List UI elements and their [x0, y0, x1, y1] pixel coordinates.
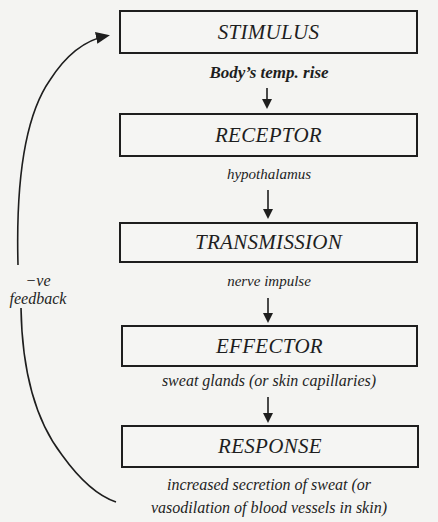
feedback-diagram: STIMULUS RECEPTOR TRANSMISSION EFFECTOR …: [0, 0, 438, 522]
response-label: RESPONSE: [218, 434, 322, 459]
receptor-label: RECEPTOR: [215, 123, 322, 148]
response-caption-line2: vasodilation of blood vessels in skin): [110, 496, 428, 519]
stimulus-caption: Body’s temp. rise: [110, 63, 428, 83]
transmission-box: TRANSMISSION: [119, 222, 418, 263]
transmission-label: TRANSMISSION: [195, 230, 342, 255]
feedback-label: −ve feedback: [0, 272, 76, 308]
response-caption: increased secretion of sweat (or vasodil…: [110, 473, 428, 519]
receptor-caption: hypothalamus: [110, 166, 428, 183]
feedback-label-word: feedback: [0, 290, 76, 308]
effector-label: EFFECTOR: [216, 334, 323, 359]
effector-caption: sweat glands (or skin capillaries): [110, 372, 428, 390]
feedback-curve-upper: [18, 36, 106, 265]
feedback-curve-lower: [21, 308, 116, 502]
effector-box: EFFECTOR: [121, 325, 418, 367]
stimulus-label: STIMULUS: [218, 20, 320, 45]
response-caption-line1: increased secretion of sweat (or: [110, 473, 428, 496]
transmission-caption: nerve impulse: [110, 273, 428, 290]
response-box: RESPONSE: [121, 425, 419, 468]
receptor-box: RECEPTOR: [119, 113, 418, 157]
stimulus-box: STIMULUS: [119, 10, 418, 54]
feedback-label-sign: −ve: [0, 272, 76, 290]
